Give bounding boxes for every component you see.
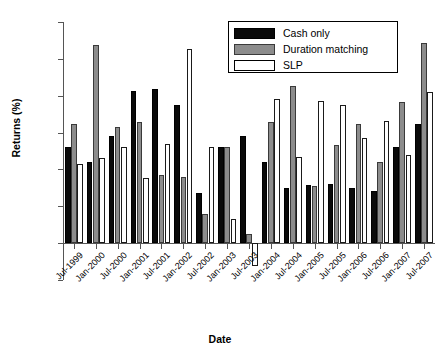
bar-duration-matching-jan-2001 bbox=[137, 122, 143, 244]
bar-cash-only-jul-2000 bbox=[109, 136, 115, 243]
bar-duration-matching-jan-2006 bbox=[356, 124, 362, 243]
bar-slp-jul-1999 bbox=[77, 164, 83, 243]
x-axis-tick bbox=[118, 244, 119, 249]
legend-item-duration-matching: Duration matching bbox=[234, 42, 392, 57]
x-axis-tick bbox=[337, 244, 338, 249]
chart-legend: Cash only Duration matching SLP bbox=[228, 21, 398, 73]
x-axis-tick bbox=[140, 244, 141, 249]
legend-swatch-duration-matching bbox=[234, 44, 275, 55]
x-axis-title: Date bbox=[0, 333, 440, 345]
bar-slp-jul-2007 bbox=[427, 92, 433, 243]
bar-duration-matching-jul-2000 bbox=[115, 127, 121, 243]
bar-slp-jan-2004 bbox=[274, 99, 280, 243]
x-axis-tick bbox=[293, 244, 294, 249]
bar-duration-matching-jul-2004 bbox=[290, 86, 296, 243]
x-axis-tick bbox=[380, 244, 381, 249]
bar-cash-only-jan-2000 bbox=[87, 162, 93, 243]
x-axis-tick bbox=[315, 244, 316, 249]
y-axis-tick-labels: −0.500.511.522.53 bbox=[0, 0, 58, 357]
bar-cash-only-jul-2003 bbox=[240, 136, 246, 244]
x-axis-tick bbox=[205, 244, 206, 249]
x-axis-tick bbox=[227, 244, 228, 249]
bar-cash-only-jul-2001 bbox=[152, 89, 158, 243]
x-axis-tick bbox=[249, 244, 250, 249]
bar-slp-jan-2002 bbox=[187, 49, 193, 243]
legend-item-slp: SLP bbox=[234, 58, 392, 73]
legend-item-cash-only: Cash only bbox=[234, 26, 392, 41]
bar-cash-only-jul-2007 bbox=[415, 124, 421, 243]
legend-label-duration-matching: Duration matching bbox=[283, 44, 368, 55]
x-axis-tick bbox=[358, 244, 359, 249]
legend-swatch-slp bbox=[234, 60, 275, 71]
bar-cash-only-jul-1999 bbox=[65, 147, 71, 243]
x-axis-tick bbox=[402, 244, 403, 249]
bar-slp-jan-2005 bbox=[318, 101, 324, 243]
x-axis-tick bbox=[424, 244, 425, 249]
legend-label-slp: SLP bbox=[283, 60, 303, 71]
bar-cash-only-jan-2001 bbox=[131, 91, 137, 243]
x-axis-tick bbox=[161, 244, 162, 249]
bar-cash-only-jan-2005 bbox=[306, 185, 312, 243]
legend-label-cash-only: Cash only bbox=[283, 28, 330, 39]
bar-duration-matching-jan-2000 bbox=[93, 45, 99, 243]
x-axis-tick bbox=[271, 244, 272, 249]
bar-cash-only-jan-2006 bbox=[349, 188, 355, 243]
bar-cash-only-jan-2002 bbox=[174, 105, 180, 243]
bar-duration-matching-jan-2007 bbox=[399, 102, 405, 244]
bar-chart-figure: Returns (%) −0.500.511.522.53 Jul-1999Ja… bbox=[0, 0, 440, 357]
x-axis-tick bbox=[183, 244, 184, 249]
legend-swatch-cash-only bbox=[234, 28, 275, 39]
bar-duration-matching-jan-2004 bbox=[268, 122, 274, 244]
bar-duration-matching-jul-2007 bbox=[421, 43, 427, 244]
bar-cash-only-jul-2005 bbox=[328, 184, 334, 243]
x-axis-tick bbox=[74, 244, 75, 249]
bar-duration-matching-jul-1999 bbox=[71, 124, 77, 243]
bar-duration-matching-jul-2005 bbox=[334, 145, 340, 243]
bar-slp-jul-2005 bbox=[340, 105, 346, 244]
x-axis-tick bbox=[96, 244, 97, 249]
